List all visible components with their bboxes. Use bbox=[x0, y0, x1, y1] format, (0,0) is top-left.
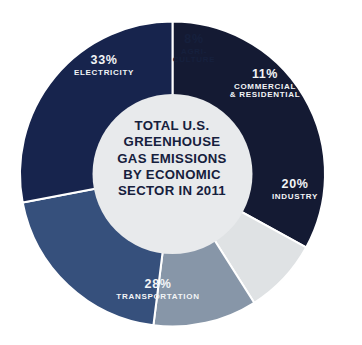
donut-center-disc bbox=[93, 94, 253, 254]
donut-chart: TOTAL U.S. GREENHOUSE GAS EMISSIONS BY E… bbox=[0, 0, 362, 345]
donut-chart-svg bbox=[0, 0, 362, 345]
